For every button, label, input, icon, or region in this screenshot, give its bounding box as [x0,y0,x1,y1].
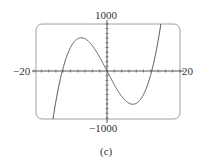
x-axis-min-label: −20 [13,66,30,77]
figure-caption: (c) [100,146,112,157]
y-axis-max-label: 1000 [95,10,117,21]
y-axis-min-label: −1000 [89,123,117,134]
cubic-function-plot [0,0,201,164]
x-axis-max-label: 20 [182,66,193,77]
